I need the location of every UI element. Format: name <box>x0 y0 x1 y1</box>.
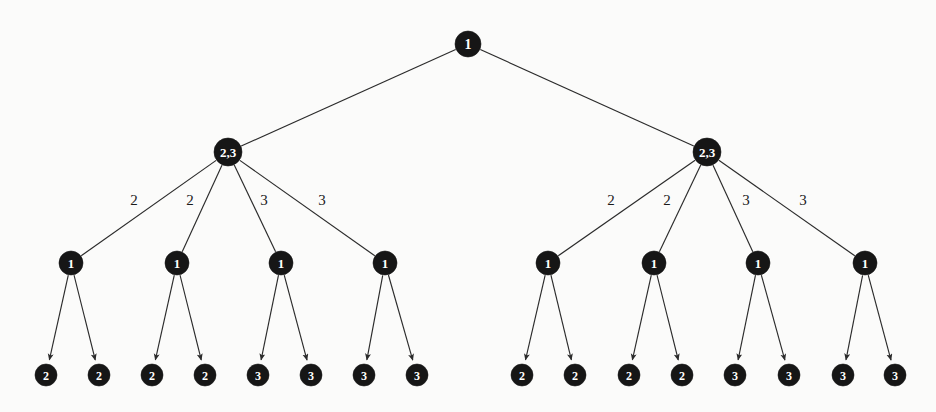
tree-node-L[interactable]: 2,3 <box>214 138 242 166</box>
tree-node-R2b[interactable]: 2 <box>671 364 693 386</box>
tree-diagram-figure: 22332233 12,32,3111111112222333322223333 <box>0 0 936 412</box>
tree-node-root[interactable]: 1 <box>455 31 481 57</box>
tree-edge <box>558 160 695 256</box>
edge-label: 3 <box>318 192 326 208</box>
node-label: 1 <box>862 256 869 271</box>
tree-edge <box>551 275 571 360</box>
edge-label: 3 <box>260 192 268 208</box>
node-label: 1 <box>755 256 762 271</box>
tree-node-R1b[interactable]: 2 <box>564 364 586 386</box>
tree-node-R1[interactable]: 1 <box>536 251 560 275</box>
node-label: 3 <box>892 369 898 383</box>
tree-node-L3b[interactable]: 3 <box>300 364 322 386</box>
tree-edge <box>367 275 383 359</box>
tree-edge <box>180 275 201 360</box>
tree-edge <box>868 275 891 360</box>
tree-edge <box>480 50 693 146</box>
node-label: 1 <box>651 256 658 271</box>
tree-edge <box>846 275 863 360</box>
tree-node-L4a[interactable]: 3 <box>353 364 375 386</box>
node-label: 2 <box>43 369 49 383</box>
tree-node-L3a[interactable]: 3 <box>247 364 269 386</box>
tree-edge <box>526 275 546 360</box>
nodes-layer: 12,32,3111111112222333322223333 <box>35 31 906 386</box>
tree-edge <box>234 165 275 252</box>
node-label: 2 <box>572 369 578 383</box>
edge-label: 3 <box>742 192 750 208</box>
tree-node-R1a[interactable]: 2 <box>511 364 533 386</box>
edge-label: 2 <box>186 192 194 208</box>
tree-edge <box>49 275 68 360</box>
tree-node-L3[interactable]: 1 <box>269 251 293 275</box>
tree-node-L1b[interactable]: 2 <box>88 364 110 386</box>
tree-edge <box>284 275 307 360</box>
edge-label: 3 <box>799 192 807 208</box>
node-label: 1 <box>382 256 389 271</box>
edge-label: 2 <box>607 192 615 208</box>
node-label: 3 <box>255 369 261 383</box>
tree-edge <box>632 275 651 360</box>
node-label: 3 <box>414 369 420 383</box>
tree-edge <box>182 165 222 251</box>
node-label: 1 <box>278 256 285 271</box>
tree-node-L2[interactable]: 1 <box>165 251 189 275</box>
tree-diagram-canvas: 22332233 12,32,3111111112222333322223333 <box>0 0 936 412</box>
node-label: 2 <box>626 369 632 383</box>
tree-node-L4b[interactable]: 3 <box>406 364 428 386</box>
tree-edge <box>713 165 753 251</box>
node-label: 1 <box>174 256 181 271</box>
tree-edge <box>761 275 785 360</box>
node-label: 2 <box>679 369 685 383</box>
tree-node-L2b[interactable]: 2 <box>194 364 216 386</box>
tree-edge <box>388 275 412 360</box>
tree-node-R3[interactable]: 1 <box>746 251 770 275</box>
node-label: 3 <box>361 369 367 383</box>
node-label: 3 <box>840 369 846 383</box>
tree-edge <box>261 275 278 360</box>
node-label: 2 <box>202 369 208 383</box>
tree-edge <box>74 275 95 360</box>
tree-edge <box>240 160 375 255</box>
tree-node-L1a[interactable]: 2 <box>35 364 57 386</box>
node-label: 3 <box>786 369 792 383</box>
tree-edge <box>719 160 855 255</box>
edge-label: 2 <box>130 192 138 208</box>
tree-edge <box>81 160 216 255</box>
tree-node-R4[interactable]: 1 <box>853 251 877 275</box>
tree-edge <box>657 275 678 360</box>
node-label: 2 <box>149 369 155 383</box>
tree-node-L2a[interactable]: 2 <box>141 364 163 386</box>
tree-node-R4a[interactable]: 3 <box>832 364 854 386</box>
edge-labels-layer: 22332233 <box>130 192 807 208</box>
tree-node-R3a[interactable]: 3 <box>724 364 746 386</box>
tree-edge <box>659 165 700 252</box>
tree-node-L4[interactable]: 1 <box>373 251 397 275</box>
tree-edge <box>738 275 755 360</box>
node-label: 1 <box>465 37 472 52</box>
tree-node-R2[interactable]: 1 <box>642 251 666 275</box>
edge-label: 2 <box>663 192 671 208</box>
node-label: 2 <box>96 369 102 383</box>
node-label: 2,3 <box>220 145 237 160</box>
tree-node-L1[interactable]: 1 <box>59 251 83 275</box>
node-label: 1 <box>68 256 75 271</box>
tree-node-R3b[interactable]: 3 <box>778 364 800 386</box>
tree-edge <box>155 275 174 360</box>
node-label: 2 <box>519 369 525 383</box>
tree-node-R2a[interactable]: 2 <box>618 364 640 386</box>
edges-layer <box>49 50 891 361</box>
node-label: 3 <box>732 369 738 383</box>
tree-node-R4b[interactable]: 3 <box>884 364 906 386</box>
node-label: 2,3 <box>699 145 716 160</box>
tree-node-R[interactable]: 2,3 <box>693 138 721 166</box>
node-label: 1 <box>545 256 552 271</box>
tree-edge <box>241 50 455 147</box>
node-label: 3 <box>308 369 314 383</box>
